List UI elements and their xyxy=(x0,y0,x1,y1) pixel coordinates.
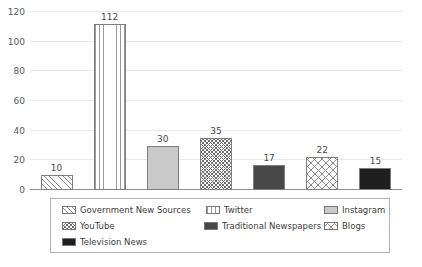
legend-item-television-news[interactable]: Television News xyxy=(62,238,147,247)
y-axis-tick-label: 40 xyxy=(14,126,25,135)
legend-item-label: Blogs xyxy=(342,222,365,231)
legend-item-youtube[interactable]: YouTube xyxy=(62,222,115,231)
legend-swatch-icon xyxy=(204,222,218,230)
bar[interactable] xyxy=(41,175,73,190)
y-axis-tick-label: 120 xyxy=(8,8,25,17)
legend-swatch-icon xyxy=(206,206,220,214)
bar-group: 15 xyxy=(359,12,391,190)
bars-layer: 101123035172215 xyxy=(30,12,402,190)
bar[interactable] xyxy=(253,165,285,190)
bar-group: 112 xyxy=(94,12,126,190)
bar-chart: 020406080100120 101123035172215 Governme… xyxy=(0,0,422,267)
legend-item-instagram[interactable]: Instagram xyxy=(324,206,385,215)
bar-value-label: 35 xyxy=(200,127,232,136)
y-axis-tick-label: 100 xyxy=(8,37,25,46)
legend-item-label: Twitter xyxy=(224,206,253,215)
bar[interactable] xyxy=(359,168,391,190)
y-axis-tick-label: 0 xyxy=(19,186,25,195)
legend-item-blogs[interactable]: Blogs xyxy=(324,222,365,231)
bar-group: 17 xyxy=(253,12,285,190)
bar-value-label: 17 xyxy=(253,154,285,163)
legend-item-label: YouTube xyxy=(80,222,115,231)
bar-group: 35 xyxy=(200,12,232,190)
legend-item-label: Television News xyxy=(80,238,147,247)
bar-value-label: 10 xyxy=(41,164,73,173)
legend-row: Television News xyxy=(56,234,384,250)
bar-value-label: 15 xyxy=(359,157,391,166)
bar[interactable] xyxy=(306,157,338,190)
legend: Government New Sources Twitter Instagram… xyxy=(50,198,390,253)
bar-group: 22 xyxy=(306,12,338,190)
legend-item-traditional-newspapers[interactable]: Traditional Newspapers xyxy=(204,222,321,231)
plot-area: 020406080100120 101123035172215 xyxy=(30,12,402,190)
legend-row: Government New Sources Twitter Instagram xyxy=(56,202,384,218)
bar-value-label: 112 xyxy=(94,13,126,22)
bar-value-label: 30 xyxy=(147,135,179,144)
legend-swatch-icon xyxy=(324,206,338,214)
legend-item-government-new-sources[interactable]: Government New Sources xyxy=(62,206,191,215)
y-axis-tick-label: 20 xyxy=(14,156,25,165)
bar-group: 10 xyxy=(41,12,73,190)
bar[interactable] xyxy=(147,146,179,191)
legend-item-label: Traditional Newspapers xyxy=(222,222,321,231)
bar[interactable] xyxy=(200,138,232,190)
legend-swatch-icon xyxy=(62,206,76,214)
bar-group: 30 xyxy=(147,12,179,190)
bar-value-label: 22 xyxy=(306,146,338,155)
bar[interactable] xyxy=(94,24,126,190)
y-axis-tick-label: 60 xyxy=(14,97,25,106)
legend-swatch-icon xyxy=(324,222,338,230)
y-axis-tick-label: 80 xyxy=(14,67,25,76)
legend-item-label: Instagram xyxy=(342,206,385,215)
legend-row: YouTube Traditional Newspapers Blogs xyxy=(56,218,384,234)
legend-item-twitter[interactable]: Twitter xyxy=(206,206,253,215)
legend-swatch-icon xyxy=(62,222,76,230)
legend-swatch-icon xyxy=(62,238,76,246)
legend-item-label: Government New Sources xyxy=(80,206,191,215)
